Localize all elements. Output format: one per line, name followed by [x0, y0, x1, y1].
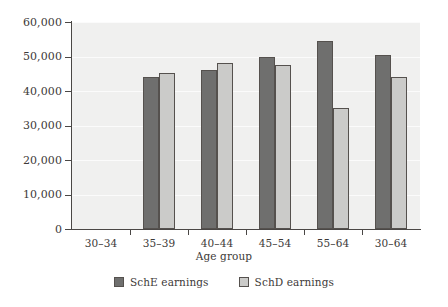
y-axis-tick-label: 0	[0, 224, 62, 235]
gridline	[72, 57, 420, 58]
x-axis-tick-label: 55–64	[304, 237, 362, 249]
bar	[275, 65, 291, 229]
legend-label: SchD earnings	[255, 276, 334, 288]
gridline	[72, 91, 420, 92]
legend-color-swatch	[114, 277, 124, 287]
gridline	[72, 160, 420, 161]
legend-entry: SchD earnings	[239, 276, 334, 288]
x-axis-tick-label: 30–34	[72, 237, 130, 249]
y-axis-tick-mark	[65, 22, 71, 23]
bar	[317, 41, 333, 229]
y-axis-tick-mark	[65, 57, 71, 58]
bar	[391, 77, 407, 229]
gridline	[72, 126, 420, 127]
x-axis-tick-label: 30–64	[362, 237, 420, 249]
legend-color-swatch	[239, 277, 249, 287]
gridline	[72, 22, 420, 23]
bar	[201, 70, 217, 229]
x-axis-tick-mark	[304, 230, 305, 235]
plot-area	[72, 22, 420, 229]
y-axis-tick-label: 40,000	[0, 86, 62, 97]
x-axis-tick-mark	[188, 230, 189, 235]
bar	[259, 57, 275, 230]
y-axis-tick-mark	[65, 229, 71, 230]
legend-label: SchE earnings	[130, 276, 209, 288]
x-axis-tick-label: 45–54	[246, 237, 304, 249]
bar	[375, 55, 391, 229]
bar	[143, 77, 159, 229]
x-axis-tick-label: 35–39	[130, 237, 188, 249]
bar	[217, 63, 233, 229]
bar	[333, 108, 349, 229]
y-axis-tick-label: 20,000	[0, 155, 62, 166]
y-axis-line	[71, 21, 72, 230]
y-axis-tick-label: 50,000	[0, 51, 62, 62]
x-axis-tick-mark	[246, 230, 247, 235]
y-axis-tick-mark	[65, 195, 71, 196]
bar	[159, 73, 175, 229]
y-axis-tick-label: 60,000	[0, 17, 62, 28]
legend-entry: SchE earnings	[114, 276, 209, 288]
y-axis-tick-mark	[65, 126, 71, 127]
gridline	[72, 195, 420, 196]
chart-legend: SchE earningsSchD earnings	[0, 276, 448, 288]
bar-chart-figure: 010,00020,00030,00040,00050,00060,000 Ag…	[0, 0, 448, 307]
x-axis-tick-mark	[130, 230, 131, 235]
y-axis-tick-mark	[65, 91, 71, 92]
y-axis-tick-label: 30,000	[0, 120, 62, 131]
y-axis-tick-label: 10,000	[0, 189, 62, 200]
x-axis-tick-mark	[362, 230, 363, 235]
x-axis-title: Age group	[0, 250, 448, 262]
y-axis-tick-mark	[65, 160, 71, 161]
x-axis-tick-label: 40–44	[188, 237, 246, 249]
